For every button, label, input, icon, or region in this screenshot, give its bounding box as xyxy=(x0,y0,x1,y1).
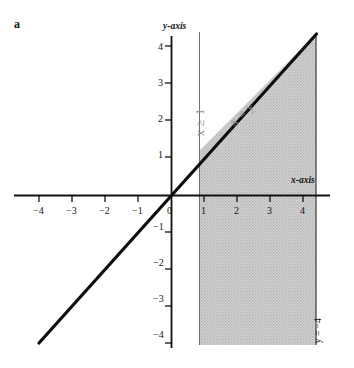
y-tick-label: −2 xyxy=(153,258,164,268)
shaded-region xyxy=(200,34,317,345)
x-tick-label: −4 xyxy=(33,206,44,216)
x-tick-label: 2 xyxy=(234,206,239,216)
y-tick-label: −1 xyxy=(153,222,164,232)
y-tick-label: −3 xyxy=(153,294,164,304)
y-tick-label: −4 xyxy=(153,330,164,340)
x-axis-label: x-axis xyxy=(291,176,315,186)
annotation-y-equals-minus-4: y = −4 xyxy=(314,318,324,343)
figure-panel: a y-axis x-axis x ≥ 1 x = y y = −4 −4−3−… xyxy=(0,0,354,368)
panel-label: a xyxy=(14,18,20,30)
x-tick-label: 4 xyxy=(300,206,305,216)
x-tick-label: 3 xyxy=(267,206,272,216)
y-tick-label: 1 xyxy=(158,150,163,160)
x-tick-label: −2 xyxy=(99,206,110,216)
x-tick-label: −3 xyxy=(66,206,77,216)
x-tick-label: 1 xyxy=(201,206,206,216)
y-tick-label: 4 xyxy=(158,42,163,52)
y-axis-label: y-axis xyxy=(163,22,186,32)
annotation-x-greater-equal-1: x ≥ 1 xyxy=(194,108,207,136)
y-tick-label: 2 xyxy=(158,114,163,124)
y-tick-label: 3 xyxy=(158,78,163,88)
x-tick-label: −1 xyxy=(132,206,143,216)
x-tick-label: 0 xyxy=(167,206,172,216)
